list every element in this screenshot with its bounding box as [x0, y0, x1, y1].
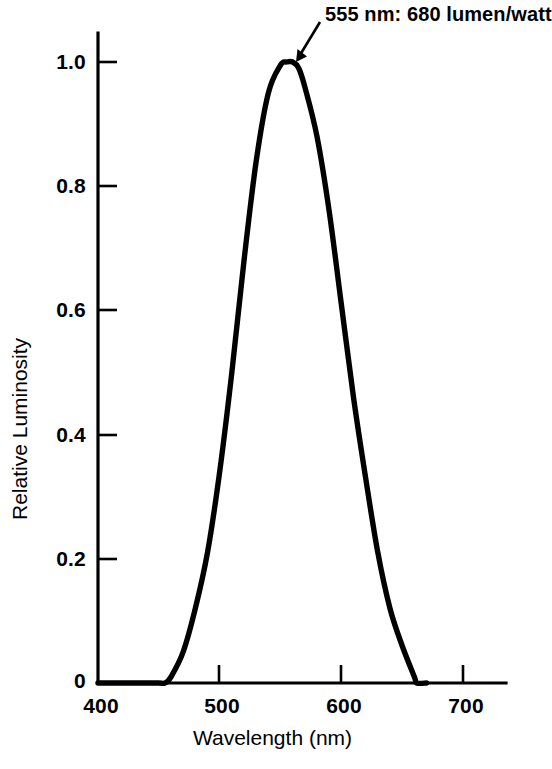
luminosity-curve: [98, 61, 427, 683]
x-tick-label-400: 400: [83, 694, 119, 718]
axis-lines: [98, 33, 506, 683]
y-tick-label-0.8: 0.8: [28, 174, 86, 198]
y-tick-marks: [98, 62, 117, 559]
x-tick-marks: [219, 665, 463, 683]
x-axis-title: Wavelength (nm): [0, 726, 545, 750]
x-tick-label-600: 600: [326, 694, 362, 718]
x-tick-label-700: 700: [448, 694, 484, 718]
y-tick-label-0: 0: [28, 669, 86, 693]
y-tick-label-0.4: 0.4: [28, 423, 86, 447]
peak-annotation-label: 555 nm: 680 lumen/watt: [325, 3, 552, 26]
arrow-shaft: [300, 22, 320, 55]
annotation-arrow: [296, 22, 320, 62]
x-tick-label-500: 500: [204, 694, 240, 718]
y-tick-label-0.6: 0.6: [28, 298, 86, 322]
y-axis-title: Relative Luminosity: [8, 490, 32, 520]
y-tick-label-1.0: 1.0: [28, 50, 86, 74]
y-tick-label-0.2: 0.2: [28, 547, 86, 571]
